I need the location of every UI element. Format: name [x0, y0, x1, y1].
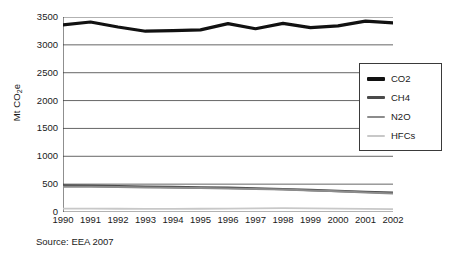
y-tick-label: 1500	[24, 123, 58, 133]
legend-swatch-icon	[367, 131, 385, 141]
legend-label: CO2	[391, 73, 411, 84]
y-tick-label: 3500	[24, 12, 58, 22]
legend-label: N2O	[391, 111, 411, 122]
legend-swatch-icon	[367, 93, 385, 103]
legend-swatch-icon	[367, 112, 385, 122]
gridlines	[63, 17, 393, 212]
chart-legend: CO2CH4N2OHFCs	[359, 63, 442, 151]
series-line-co2	[63, 21, 393, 31]
y-tick-label: 2500	[24, 68, 58, 78]
legend-item-co2[interactable]: CO2	[360, 69, 441, 88]
plot-area	[63, 17, 393, 212]
y-tick-label: 2000	[24, 96, 58, 106]
y-tick-label: 500	[24, 179, 58, 189]
x-tick-label: 2002	[376, 214, 410, 226]
legend-item-hfcs[interactable]: HFCs	[360, 126, 441, 145]
y-tick-label: 1000	[24, 151, 58, 161]
data-series-group	[63, 21, 393, 209]
chart-figure: Mt CO2e 0500100015002000250030003500 199…	[0, 0, 449, 263]
legend-item-ch4[interactable]: CH4	[360, 88, 441, 107]
legend-item-n2o[interactable]: N2O	[360, 107, 441, 126]
chart-plot-svg	[63, 17, 393, 212]
source-note: Source: EEA 2007	[36, 236, 114, 248]
legend-label: HFCs	[391, 130, 415, 141]
y-tick-label: 3000	[24, 40, 58, 50]
series-line-hfcs	[63, 208, 393, 209]
legend-label: CH4	[391, 92, 410, 103]
legend-swatch-icon	[367, 74, 385, 84]
x-axis-tick-labels: 1990199119921993199419951996199719981999…	[63, 214, 393, 230]
